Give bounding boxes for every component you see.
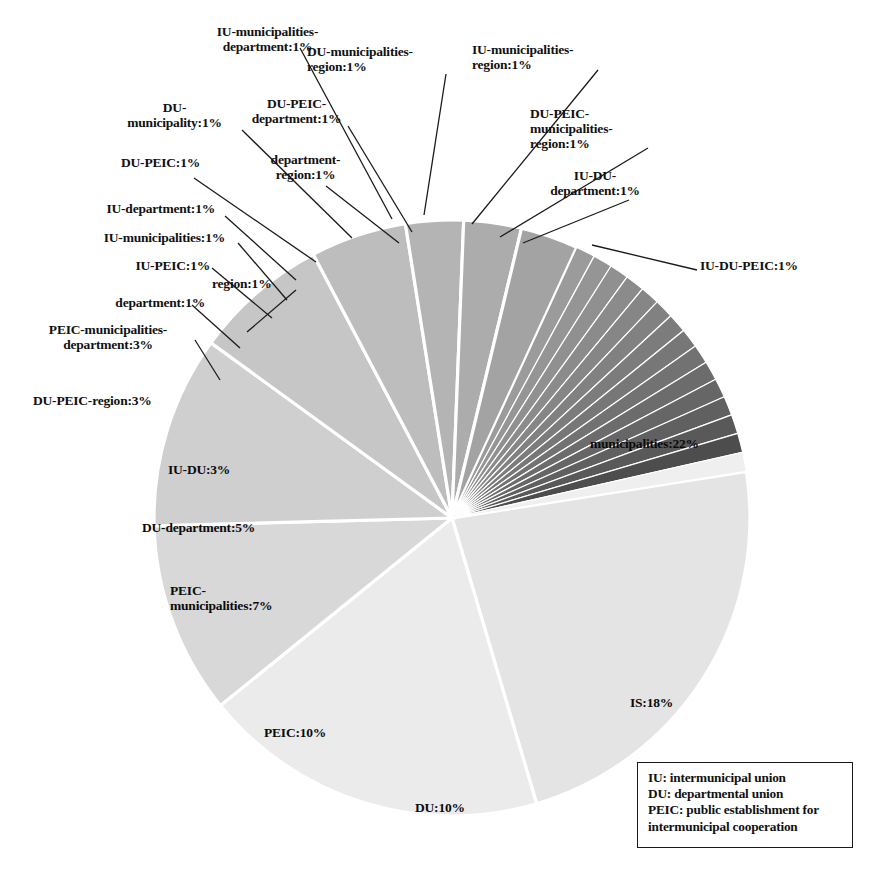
slice-label-department-region: department- region:1% [253, 152, 358, 182]
legend-line-du: DU: departmental union [648, 786, 852, 802]
slice-label-peic-municipalities: PEIC- municipalities:7% [170, 583, 320, 613]
slice-label-iu-department: IU-department:1% [40, 201, 215, 216]
slice-label-du-peic-region: DU-PEIC-region:3% [33, 393, 233, 408]
slice-label-iu-du: IU-DU:3% [168, 462, 278, 477]
leader-line [194, 178, 316, 262]
leader-line [225, 216, 296, 280]
slice-label-region: region:1% [212, 276, 322, 291]
slice-label-iu-peic: IU-PEIC:1% [60, 258, 210, 273]
slice-label-is: IS:18% [630, 695, 750, 710]
slice-label-du-department: DU-department:5% [142, 520, 317, 535]
pie-chart-figure: IU-municipalities- department:1% DU-muni… [0, 0, 878, 883]
legend-box: IU: intermunicipal union DU: departmenta… [637, 762, 853, 848]
slice-label-du-peic-municipalities-region: DU-PEIC- municipalities- region:1% [530, 106, 680, 151]
slice-label-iu-municipalities: IU-municipalities:1% [30, 230, 225, 245]
legend-line-peic: PEIC: public establishment for intermuni… [648, 802, 852, 834]
leader-line [424, 74, 446, 215]
slice-label-du-peic: DU-PEIC:1% [40, 155, 200, 170]
pie-slices-group [154, 220, 750, 816]
slice-label-iu-du-peic: IU-DU-PEIC:1% [700, 258, 875, 273]
slice-label-iu-du-department: IU-DU- department:1% [520, 168, 670, 198]
leader-line [523, 200, 629, 243]
slice-label-du: DU:10% [415, 800, 535, 815]
slice-label-du-peic-department: DU-PEIC- department:1% [219, 96, 374, 126]
slice-label-du-municipalities-region: DU-municipalities- region:1% [307, 44, 467, 74]
slice-label-municipalities: municipalities:22% [590, 436, 780, 451]
legend-line-iu: IU: intermunicipal union [648, 770, 852, 786]
slice-label-department: department:1% [30, 295, 205, 310]
slice-label-peic: PEIC:10% [264, 725, 404, 740]
slice-label-iu-municipalities-region: IU-municipalities- region:1% [472, 42, 632, 72]
slice-label-peic-municipalities-department: PEIC-municipalities- department:3% [8, 322, 208, 352]
